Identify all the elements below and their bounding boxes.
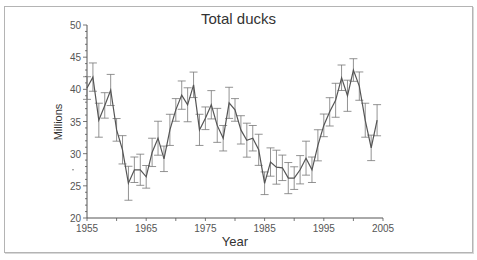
y-tick-label: 30	[70, 149, 82, 160]
x-tick-label: 1985	[253, 223, 276, 234]
y-tick-label: 45	[70, 52, 82, 63]
x-tick-label: 1965	[135, 223, 158, 234]
y-tick-label: 35	[70, 117, 82, 128]
y-tick-label: 25	[70, 181, 82, 192]
axes: 20253035404550195519651975198519952005	[70, 20, 395, 234]
x-tick-label: 2005	[372, 223, 395, 234]
y-tick-label: 40	[70, 84, 82, 95]
x-axis-label: Year	[222, 234, 249, 249]
x-tick-label: 1955	[76, 223, 99, 234]
y-tick-label: 50	[70, 20, 82, 31]
x-tick-label: 1975	[194, 223, 217, 234]
line-chart: 20253035404550195519651975198519952005 Y…	[0, 0, 477, 260]
x-tick-label: 1995	[313, 223, 336, 234]
y-axis-label: Millions	[52, 103, 64, 140]
